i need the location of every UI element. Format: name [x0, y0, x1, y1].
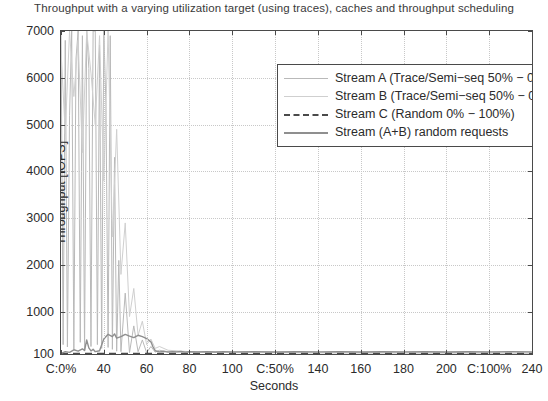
y-tick-label: 5000	[26, 118, 54, 132]
legend-item-label: Stream B (Trace/Semi−seq 50% − 0%)	[335, 89, 533, 103]
legend-item-label: Stream C (Random 0% − 100%)	[335, 107, 515, 121]
chart-title: Throughput with a varying utilization ta…	[0, 2, 548, 14]
x-tick-label: C:0%	[46, 362, 77, 376]
gridline-vertical	[189, 31, 190, 354]
y-axis-title: Throughput [IOPS]	[60, 140, 68, 244]
plot-area: Throughput [IOPS] Stream A (Trace/Semi−s…	[60, 30, 533, 355]
x-tick-mark-top	[489, 31, 490, 35]
x-tick-label: 80	[183, 362, 197, 376]
x-tick-mark	[232, 350, 233, 354]
y-tick-mark	[61, 125, 65, 126]
x-tick-mark	[361, 350, 362, 354]
legend-line-sample-icon	[284, 72, 328, 84]
y-tick-mark	[61, 265, 65, 266]
gridline-horizontal	[61, 265, 532, 266]
x-tick-label: 60	[140, 362, 154, 376]
gridline-vertical	[275, 31, 276, 354]
y-axis-tick-labels: 1001000200030004000500060007000	[0, 0, 57, 401]
x-tick-label: 160	[350, 362, 371, 376]
x-tick-mark-top	[147, 31, 148, 35]
x-tick-mark	[446, 350, 447, 354]
y-tick-mark	[61, 218, 65, 219]
x-tick-mark-top	[232, 31, 233, 35]
x-tick-mark	[489, 350, 490, 354]
y-tick-label: 1000	[26, 305, 54, 319]
x-tick-mark	[61, 350, 62, 354]
y-tick-mark-right	[528, 171, 532, 172]
gridline-vertical	[104, 31, 105, 354]
x-tick-mark-top	[189, 31, 190, 35]
gridline-horizontal	[61, 171, 532, 172]
y-tick-mark-right	[528, 312, 532, 313]
x-tick-label: 240	[522, 362, 543, 376]
gridline-horizontal	[61, 312, 532, 313]
x-axis-title: Seconds	[0, 379, 548, 393]
legend-line-sample-icon	[284, 126, 328, 138]
x-tick-mark-top	[104, 31, 105, 35]
y-tick-label: 100	[33, 347, 54, 361]
x-tick-mark-top	[404, 31, 405, 35]
y-tick-mark-right	[528, 218, 532, 219]
y-tick-mark-right	[528, 354, 532, 355]
legend-item-label: Stream (A+B) random requests	[335, 125, 508, 139]
y-tick-mark	[61, 312, 65, 313]
x-tick-label: C:50%	[256, 362, 294, 376]
y-tick-mark	[61, 78, 65, 79]
y-tick-mark	[61, 354, 65, 355]
x-tick-mark-top	[446, 31, 447, 35]
x-tick-mark	[189, 350, 190, 354]
x-tick-mark-top	[361, 31, 362, 35]
x-axis-tick-labels: C:0%406080100C:50%140160180200C:100%240	[0, 362, 548, 378]
x-tick-mark	[318, 350, 319, 354]
gridline-vertical	[232, 31, 233, 354]
y-tick-mark	[61, 171, 65, 172]
y-tick-label: 6000	[26, 71, 54, 85]
x-tick-mark-top	[61, 31, 62, 35]
x-tick-label: 180	[393, 362, 414, 376]
x-tick-label: C:100%	[467, 362, 511, 376]
chart-legend: Stream A (Trace/Semi−seq 50% − 0%)Stream…	[277, 64, 533, 147]
x-tick-mark	[147, 350, 148, 354]
series-line	[61, 334, 532, 354]
legend-item[interactable]: Stream A (Trace/Semi−seq 50% − 0%)	[284, 69, 533, 87]
x-tick-label: 40	[97, 362, 111, 376]
y-tick-label: 7000	[26, 24, 54, 38]
y-tick-mark-right	[528, 265, 532, 266]
legend-line-sample-icon	[284, 108, 328, 120]
legend-line-sample-icon	[284, 90, 328, 102]
y-tick-label: 2000	[26, 258, 54, 272]
gridline-horizontal	[61, 218, 532, 219]
gridline-vertical	[147, 31, 148, 354]
chart-figure: Throughput with a varying utilization ta…	[0, 0, 548, 401]
legend-item[interactable]: Stream B (Trace/Semi−seq 50% − 0%)	[284, 87, 533, 105]
x-tick-mark-top	[275, 31, 276, 35]
y-tick-label: 3000	[26, 211, 54, 225]
legend-item[interactable]: Stream C (Random 0% − 100%)	[284, 105, 533, 123]
y-tick-label: 4000	[26, 164, 54, 178]
x-tick-mark-top	[318, 31, 319, 35]
x-tick-mark-top	[532, 31, 533, 35]
x-tick-label: 200	[436, 362, 457, 376]
x-tick-mark	[104, 350, 105, 354]
x-tick-mark	[532, 350, 533, 354]
x-tick-mark	[404, 350, 405, 354]
x-tick-mark	[275, 350, 276, 354]
legend-item[interactable]: Stream (A+B) random requests	[284, 123, 533, 141]
legend-item-label: Stream A (Trace/Semi−seq 50% − 0%)	[335, 71, 533, 85]
x-tick-label: 100	[222, 362, 243, 376]
x-tick-label: 140	[307, 362, 328, 376]
